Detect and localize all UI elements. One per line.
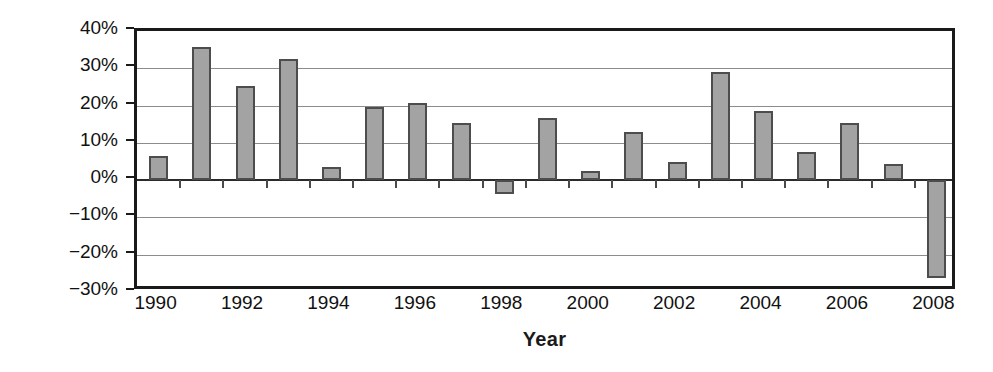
- x-tick-mark: [698, 180, 700, 188]
- x-tick-mark: [914, 180, 916, 188]
- plot-inner: [137, 31, 952, 286]
- x-tick-label: 2006: [802, 292, 892, 314]
- bar: [538, 118, 557, 180]
- x-tick-label: 1996: [370, 292, 460, 314]
- x-tick-mark: [784, 180, 786, 188]
- x-tick-label: 2004: [716, 292, 806, 314]
- x-tick-mark: [222, 180, 224, 188]
- gridline: [137, 106, 952, 107]
- gridline: [137, 217, 952, 218]
- gridline: [137, 255, 952, 256]
- x-tick-mark: [395, 180, 397, 188]
- bar: [840, 123, 859, 180]
- bar: [495, 180, 514, 194]
- bar: [279, 59, 298, 180]
- x-tick-label: 1990: [111, 292, 201, 314]
- y-tick-label: −20%: [69, 241, 118, 263]
- y-tick-mark: [126, 27, 134, 29]
- bar: [754, 111, 773, 180]
- y-tick-label: 20%: [80, 92, 118, 114]
- bar: [581, 171, 600, 180]
- x-tick-label: 1994: [283, 292, 373, 314]
- x-tick-mark: [266, 180, 268, 188]
- y-tick-mark: [126, 176, 134, 178]
- bar: [149, 156, 168, 180]
- x-tick-mark: [568, 180, 570, 188]
- x-tick-label: 1992: [197, 292, 287, 314]
- x-tick-label: 2000: [543, 292, 633, 314]
- x-tick-mark: [827, 180, 829, 188]
- gridline: [137, 68, 952, 69]
- bar: [322, 167, 341, 180]
- bar: [884, 164, 903, 180]
- x-tick-mark: [482, 180, 484, 188]
- bar: [192, 47, 211, 180]
- y-tick-label: −10%: [69, 203, 118, 225]
- y-tick-mark: [126, 64, 134, 66]
- y-tick-mark: [126, 251, 134, 253]
- bar: [927, 180, 946, 278]
- x-tick-mark: [525, 180, 527, 188]
- bar-chart: Return 40%30%20%10%0%−10%−20%−30% 199019…: [0, 0, 993, 372]
- x-tick-label: 1998: [456, 292, 546, 314]
- bar: [365, 107, 384, 180]
- y-tick-mark: [126, 139, 134, 141]
- bar: [452, 123, 471, 180]
- x-tick-label: 2008: [888, 292, 978, 314]
- x-tick-label: 2002: [629, 292, 719, 314]
- x-tick-mark: [309, 180, 311, 188]
- bar: [236, 86, 255, 180]
- y-tick-label: 0%: [91, 166, 118, 188]
- y-tick-mark: [126, 213, 134, 215]
- x-tick-mark: [352, 180, 354, 188]
- x-tick-mark: [438, 180, 440, 188]
- y-axis-tick-labels: 40%30%20%10%0%−10%−20%−30%: [44, 28, 126, 289]
- y-tick-mark: [126, 288, 134, 290]
- bar: [624, 132, 643, 180]
- x-axis-tick-labels: 1990199219941996199820002002200420062008: [134, 292, 955, 322]
- y-tick-label: 30%: [80, 54, 118, 76]
- x-axis-title: Year: [134, 328, 955, 351]
- x-tick-mark: [871, 180, 873, 188]
- bar: [408, 103, 427, 181]
- y-tick-mark: [126, 102, 134, 104]
- bar: [668, 162, 687, 181]
- y-tick-label: 40%: [80, 17, 118, 39]
- x-tick-mark: [611, 180, 613, 188]
- x-tick-mark: [655, 180, 657, 188]
- bar: [711, 72, 730, 181]
- x-tick-mark: [741, 180, 743, 188]
- x-tick-mark: [179, 180, 181, 188]
- plot-area: [134, 28, 955, 289]
- bar: [797, 152, 816, 180]
- y-tick-label: 10%: [80, 129, 118, 151]
